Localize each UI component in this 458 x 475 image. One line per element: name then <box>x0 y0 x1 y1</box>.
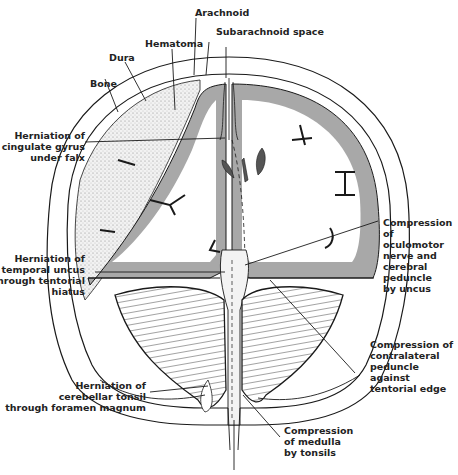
label-contralateral-compression: Compression of contralateral peduncle ag… <box>370 339 453 394</box>
label-oculomotor-compression: Compression of oculomotor nerve and cere… <box>383 217 452 294</box>
label-bone: Bone <box>90 78 117 89</box>
label-dura: Dura <box>109 52 135 63</box>
label-hematoma: Hematoma <box>145 38 203 49</box>
label-uncus-herniation: Herniation of temporal uncus through ten… <box>0 253 85 297</box>
label-medulla-compression: Compression of medulla by tonsils <box>284 425 353 458</box>
label-cingulate-herniation: Herniation of cingulate gyrus under falx <box>2 130 85 163</box>
label-arachnoid: Arachnoid <box>195 7 249 18</box>
label-subarachnoid-space: Subarachnoid space <box>216 26 324 37</box>
label-tonsil-herniation: Herniation of cerebellar tonsil through … <box>5 380 146 413</box>
